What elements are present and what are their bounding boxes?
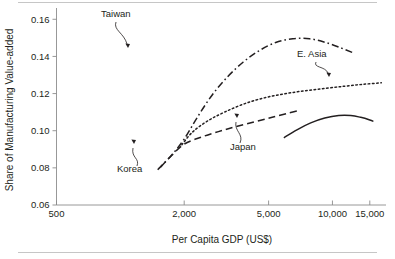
x-tick-label: 500 (49, 208, 65, 219)
y-tick-label: 0.06 (31, 199, 50, 210)
x-tick-label: 5,000 (257, 208, 281, 219)
series-label-e-asia: E. Asia (297, 48, 327, 59)
x-axis-tick-labels: 5002,0005,00010,00015,000 (49, 208, 385, 219)
series-label-japan: Japan (230, 141, 256, 152)
axis-lines (57, 8, 387, 205)
leader-arrow-korea (131, 139, 136, 144)
y-axis-ticks (53, 19, 57, 205)
x-tick-label: 15,000 (355, 208, 384, 219)
x-tick-label: 2,000 (172, 208, 196, 219)
leader-arrow-taiwan (125, 43, 130, 48)
x-axis-title: Per Capita GDP (US$) (172, 234, 272, 245)
y-tick-label: 0.14 (31, 51, 50, 62)
y-axis-title: Share of Manufacturing Value-added (4, 29, 15, 192)
chart-canvas: 5002,0005,00010,00015,000 0.060.080.100.… (0, 0, 395, 259)
chart-figure: 5002,0005,00010,00015,000 0.060.080.100.… (0, 0, 395, 259)
series-label-korea: Korea (117, 163, 143, 174)
y-tick-label: 0.12 (31, 88, 50, 99)
y-tick-label: 0.08 (31, 162, 50, 173)
leader-line-e-asia (316, 62, 328, 73)
y-tick-label: 0.16 (31, 14, 50, 25)
x-tick-label: 10,000 (318, 208, 347, 219)
leader-arrow-e-asia (326, 72, 331, 77)
series-line-japan (284, 115, 374, 138)
series-line-e-asia (182, 83, 381, 145)
leader-arrow-japan (234, 113, 239, 118)
x-axis-ticks (57, 201, 370, 206)
leader-line-taiwan (115, 22, 127, 44)
series-curves (158, 38, 382, 169)
y-tick-label: 0.10 (31, 125, 50, 136)
series-label-taiwan: Taiwan (101, 8, 131, 19)
y-axis-tick-labels: 0.060.080.100.120.140.16 (31, 14, 50, 211)
series-line-korea (161, 111, 299, 167)
